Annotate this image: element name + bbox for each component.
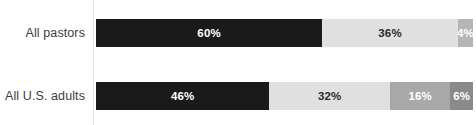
bar-segment-value: 4% (458, 27, 473, 39)
bar-segment[interactable]: 60% (96, 19, 322, 47)
bar-segment[interactable]: 16% (390, 82, 450, 110)
stacked-bar-track: 46% 32% 16% 6% (96, 82, 473, 110)
row-category-label: All pastors (0, 19, 85, 47)
bar-segment[interactable]: 32% (269, 82, 390, 110)
bar-segment-value: 32% (318, 90, 342, 102)
stacked-bar-track: 60% 36% 4% (96, 19, 473, 47)
chart-row: All U.S. adults 46% 32% 16% 6% (0, 82, 476, 110)
bar-segment-value: 16% (408, 90, 432, 102)
bar-segment-value: 36% (378, 27, 402, 39)
chart-row: All pastors 60% 36% 4% (0, 19, 476, 47)
bar-segment[interactable]: 6% (450, 82, 473, 110)
bar-segment[interactable]: 4% (458, 19, 473, 47)
bar-segment-value: 60% (197, 27, 221, 39)
stacked-bar-chart: All pastors 60% 36% 4% All U.S. adults 4… (0, 0, 476, 125)
row-category-label: All U.S. adults (0, 82, 85, 110)
bar-segment[interactable]: 36% (322, 19, 458, 47)
bar-segment[interactable]: 46% (96, 82, 269, 110)
bar-segment-value: 6% (453, 90, 470, 102)
bar-segment-value: 46% (171, 90, 195, 102)
